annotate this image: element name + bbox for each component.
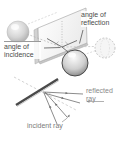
incidence-label-leader [44,48,61,49]
incident-ray-label: incident ray [27,122,79,130]
eyeball-highlight [68,52,76,57]
object-ball-highlight [11,24,19,30]
mirror-line-2d [16,79,58,105]
virtual-ray-dashed [63,47,95,48]
reflected-ray-label: reflected ray [86,87,120,103]
angle-of-incidence-label: angle of incidence [4,41,41,59]
reflected-ray-1-arrowhead [65,92,68,94]
reflected-ray-1 [43,92,83,94]
object-ball [7,21,29,43]
angle-of-reflection-label: angle of reflection [81,11,121,27]
mirror-line-sheen [17,81,59,107]
virtual-image-sphere [95,38,115,58]
reflection-figure: angle of incidence angle of reflection r… [0,0,121,143]
